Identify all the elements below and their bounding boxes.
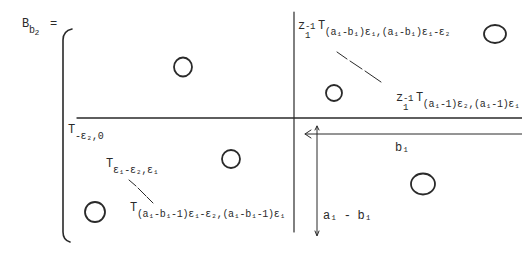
left-bracket [63, 29, 72, 242]
diagonal-dash-bottom-left [147, 197, 153, 203]
matrix-structure-lines [0, 0, 522, 260]
diagonal-dash-top-right [337, 52, 347, 59]
diagonal-dash-top-right [365, 71, 381, 82]
zero-block-circle-icon [411, 174, 435, 195]
zero-block-circle-icon [174, 58, 192, 77]
zero-block-circle-icon [85, 202, 105, 222]
diagonal-dash-top-right [350, 61, 362, 69]
diagonal-dash-bottom-left [129, 180, 136, 186]
zero-block-circle-icon [484, 25, 506, 43]
matrix-figure: Bb2 = z-11T(a₁-b₁)ε₁,(a₁-b₁)ε₁-ε₂ z-11T(… [0, 0, 522, 260]
zero-block-circle-icon [222, 150, 240, 168]
zero-block-circle-icon [326, 85, 342, 101]
diagonal-dash-bottom-left [138, 188, 146, 196]
